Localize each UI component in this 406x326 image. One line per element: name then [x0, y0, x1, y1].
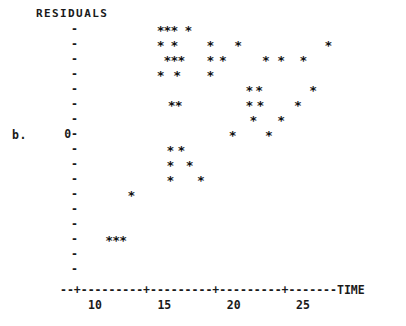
x-axis-line: --+---------+---------+---------+------- [60, 283, 337, 297]
data-point: * [112, 236, 119, 243]
y-axis-tick-row: - [50, 37, 78, 52]
data-point: * [171, 26, 178, 33]
data-point: * [245, 86, 252, 93]
data-point: * [265, 131, 272, 138]
y-axis-tick-row: - [50, 232, 78, 247]
x-axis-tick-label: 25 [296, 298, 310, 312]
y-axis-zero-row: 0- [50, 127, 78, 142]
data-point: * [294, 101, 301, 108]
y-axis-tick: - [71, 127, 78, 141]
data-point: * [166, 161, 173, 168]
y-axis-tick-row: - [50, 187, 78, 202]
y-axis-tick: - [71, 82, 78, 96]
y-axis-tick: - [71, 172, 78, 186]
data-point: * [262, 56, 269, 63]
data-point: * [157, 41, 164, 48]
y-axis: -------0---------- [50, 22, 78, 277]
x-axis-tick-label: 10 [88, 298, 102, 312]
y-axis-tick: - [71, 232, 78, 246]
data-point: * [234, 41, 241, 48]
data-point: * [325, 41, 332, 48]
data-point: * [309, 86, 316, 93]
y-axis-tick: - [71, 22, 78, 36]
data-point: * [257, 101, 264, 108]
y-axis-tick: - [71, 37, 78, 51]
y-axis-tick-row: - [50, 172, 78, 187]
data-point: * [250, 116, 257, 123]
data-point: * [186, 161, 193, 168]
y-axis-tick: - [71, 67, 78, 81]
data-point: * [128, 191, 135, 198]
y-axis-tick-row: - [50, 157, 78, 172]
data-point: * [175, 101, 182, 108]
data-point: * [229, 131, 236, 138]
data-point: * [207, 56, 214, 63]
data-point: * [157, 71, 164, 78]
data-point: * [171, 56, 178, 63]
data-point: * [277, 56, 284, 63]
x-axis-tick-label: 15 [157, 298, 171, 312]
data-point: * [166, 146, 173, 153]
data-point: * [177, 146, 184, 153]
x-axis-title: TIME [337, 283, 365, 297]
y-axis-tick: - [71, 247, 78, 261]
data-point: * [166, 176, 173, 183]
residuals-plot: RESIDUALS b. -------0---------- --+-----… [0, 0, 406, 326]
data-point: * [255, 86, 262, 93]
y-axis-tick-row: - [50, 97, 78, 112]
y-axis-tick: - [71, 97, 78, 111]
y-axis-tick-row: - [50, 202, 78, 217]
data-point: * [219, 56, 226, 63]
data-point: * [184, 26, 191, 33]
y-axis-tick: - [71, 202, 78, 216]
y-axis-tick-row: - [50, 52, 78, 67]
y-axis-tick: - [71, 217, 78, 231]
data-point: * [171, 41, 178, 48]
y-axis-tick-row: - [50, 217, 78, 232]
x-axis-tick-label: 20 [227, 298, 241, 312]
data-point: * [277, 116, 284, 123]
y-axis-tick: - [71, 262, 78, 276]
data-point: * [119, 236, 126, 243]
data-point: * [207, 41, 214, 48]
data-point: * [207, 71, 214, 78]
data-point: * [168, 101, 175, 108]
y-axis-tick-row: - [50, 262, 78, 277]
y-axis-tick-row: - [50, 67, 78, 82]
data-point: * [300, 56, 307, 63]
panel-label: b. [12, 128, 27, 142]
y-axis-title: RESIDUALS [36, 7, 108, 20]
y-axis-tick-row: - [50, 112, 78, 127]
data-point: * [105, 236, 112, 243]
y-axis-tick: - [71, 112, 78, 126]
y-axis-tick-row: - [50, 142, 78, 157]
y-axis-tick: - [71, 187, 78, 201]
y-axis-tick-row: - [50, 247, 78, 262]
data-point: * [245, 101, 252, 108]
y-axis-tick: - [71, 52, 78, 66]
data-point: * [164, 26, 171, 33]
y-axis-tick-row: - [50, 82, 78, 97]
data-point: * [173, 71, 180, 78]
y-axis-tick-row: - [50, 22, 78, 37]
y-axis-tick: - [71, 142, 78, 156]
data-point: * [197, 176, 204, 183]
data-point: * [177, 56, 184, 63]
y-axis-tick: - [71, 157, 78, 171]
data-point: * [164, 56, 171, 63]
